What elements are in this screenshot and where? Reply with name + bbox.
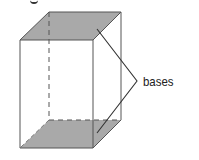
leader-line (97, 29, 137, 133)
top-base-face (20, 12, 121, 40)
bases-label: bases (143, 75, 174, 88)
bottom-base-face (20, 120, 121, 148)
